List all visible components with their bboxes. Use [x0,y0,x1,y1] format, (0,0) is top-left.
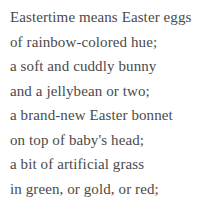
poem-line: a bit of artificial grass [10,152,193,177]
poem-line: a soft and cuddly bunny [10,54,193,79]
poem-line: on top of baby's head; [10,128,193,153]
poem-text-block: Eastertime means Easter eggs of rainbow-… [0,0,197,199]
poem-line: Eastertime means Easter eggs [10,5,193,30]
poem-line: and a jellybean or two; [10,79,193,104]
poem-line: in green, or gold, or red; [10,177,193,200]
poem-line: of rainbow-colored hue; [10,30,193,55]
poem-page: Eastertime means Easter eggs of rainbow-… [0,0,197,199]
poem-line: a brand-new Easter bonnet [10,103,193,128]
